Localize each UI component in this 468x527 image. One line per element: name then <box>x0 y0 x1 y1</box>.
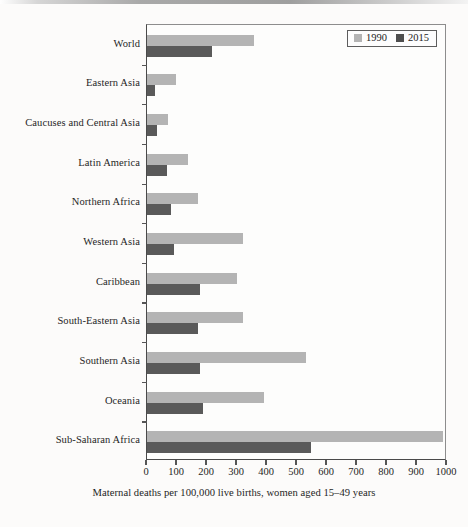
bar-1990 <box>147 74 176 85</box>
category-label: Southern Asia <box>0 355 140 366</box>
y-axis-tick <box>142 421 147 422</box>
bar-2015 <box>147 403 203 414</box>
legend-item-2015: 2015 <box>396 33 429 44</box>
category-label: South-Eastern Asia <box>0 315 140 326</box>
bar-1990 <box>147 273 237 284</box>
bar-1990 <box>147 154 188 165</box>
y-axis-tick <box>142 144 147 145</box>
bar-2015 <box>147 284 200 295</box>
y-axis-tick <box>142 302 147 303</box>
bar-1990 <box>147 114 168 125</box>
bar-2015 <box>147 244 174 255</box>
bar-1990 <box>147 392 264 403</box>
bar-2015 <box>147 323 198 334</box>
bar-2015 <box>147 46 212 57</box>
chart-legend: 1990 2015 <box>347 30 437 47</box>
legend-label-1990: 1990 <box>366 33 387 44</box>
category-label: Caucuses and Central Asia <box>0 117 140 128</box>
category-label: World <box>0 38 140 49</box>
category-label: Eastern Asia <box>0 77 140 88</box>
bar-group <box>147 74 445 96</box>
bar-2015 <box>147 363 200 374</box>
y-axis-tick <box>142 342 147 343</box>
category-label: Oceania <box>0 395 140 406</box>
y-axis-tick <box>142 104 147 105</box>
bar-1990 <box>147 193 198 204</box>
x-axis-tick <box>385 460 386 465</box>
category-label: Western Asia <box>0 236 140 247</box>
bar-group <box>147 154 445 176</box>
x-axis-tick <box>325 460 326 465</box>
bar-1990 <box>147 352 306 363</box>
bar-2015 <box>147 165 167 176</box>
y-axis-tick <box>142 65 147 66</box>
bar-1990 <box>147 233 243 244</box>
x-axis-tick <box>415 460 416 465</box>
bar-rows-container <box>147 25 445 459</box>
x-axis-tick <box>355 460 356 465</box>
x-axis-caption: Maternal deaths per 100,000 live births,… <box>0 487 468 498</box>
maternal-mortality-bar-chart: 1990 2015 010020030040050060070080090010… <box>0 0 468 527</box>
x-axis-tick <box>295 460 296 465</box>
bar-group <box>147 114 445 136</box>
bar-2015 <box>147 442 311 453</box>
x-axis-tick <box>235 460 236 465</box>
x-axis-tick <box>175 460 176 465</box>
bar-2015 <box>147 85 155 96</box>
bar-1990 <box>147 35 254 46</box>
x-axis-tick-label: 1000 <box>426 466 466 477</box>
y-axis-tick <box>142 223 147 224</box>
bar-1990 <box>147 431 443 442</box>
category-label: Latin America <box>0 157 140 168</box>
legend-item-1990: 1990 <box>354 33 387 44</box>
category-label: Caribbean <box>0 276 140 287</box>
x-axis-tick <box>265 460 266 465</box>
bar-group <box>147 312 445 334</box>
bar-group <box>147 392 445 414</box>
plot-area: 1990 2015 <box>146 24 446 460</box>
y-axis-tick <box>142 382 147 383</box>
x-axis-tick <box>445 460 446 465</box>
bar-group <box>147 233 445 255</box>
bar-2015 <box>147 125 157 136</box>
y-axis-tick <box>142 263 147 264</box>
legend-swatch-2015-icon <box>396 34 404 42</box>
x-axis: 01002003004005006007008009001000 <box>146 460 446 484</box>
category-label: Sub-Saharan Africa <box>0 434 140 445</box>
bar-group <box>147 431 445 453</box>
bar-2015 <box>147 204 171 215</box>
category-label: Northern Africa <box>0 196 140 207</box>
bar-group <box>147 352 445 374</box>
legend-label-2015: 2015 <box>408 33 429 44</box>
x-axis-tick <box>205 460 206 465</box>
x-axis-tick <box>145 460 146 465</box>
bar-1990 <box>147 312 243 323</box>
bar-group <box>147 273 445 295</box>
y-axis-tick <box>142 184 147 185</box>
bar-group <box>147 193 445 215</box>
legend-swatch-1990-icon <box>354 34 362 42</box>
